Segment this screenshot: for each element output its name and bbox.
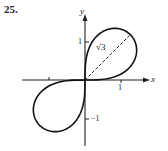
figure: 25. x y 1 1 −1 √3: [0, 0, 168, 151]
x-axis-arrow-icon: [143, 78, 150, 83]
x-tick-label-1: 1: [118, 83, 122, 92]
x-axis-label: x: [151, 74, 155, 84]
plot-area: [0, 0, 168, 151]
sqrt3-label: √3: [96, 42, 105, 52]
y-axis-label: y: [80, 6, 84, 16]
y-tick-label-1: 1: [78, 37, 82, 46]
y-tick-label-neg1: −1: [91, 114, 100, 123]
